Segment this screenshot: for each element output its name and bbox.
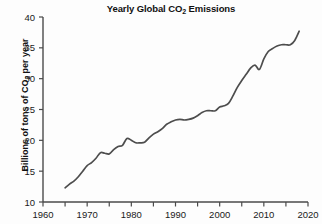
x-tick-label: 2020 xyxy=(297,209,318,220)
y-tick-label: 10 xyxy=(24,197,35,208)
y-tick-label: 15 xyxy=(24,166,35,177)
y-tick-label-group: 10152025303540 xyxy=(24,12,35,208)
data-series-line xyxy=(65,31,299,188)
y-tick-label: 25 xyxy=(24,104,35,115)
x-tick-label: 1980 xyxy=(121,209,142,220)
y-tick-label: 35 xyxy=(24,42,35,53)
y-tick-label: 20 xyxy=(24,135,35,146)
x-tick-label: 1990 xyxy=(165,209,186,220)
y-tick-label: 40 xyxy=(24,12,35,23)
x-tick-label: 2000 xyxy=(209,209,230,220)
chart-container: Yearly Global CO2 Emissions Billions of … xyxy=(0,0,322,224)
x-tick-label: 2010 xyxy=(253,209,274,220)
x-tick-label: 1970 xyxy=(77,209,98,220)
x-tick-label-group: 1960197019801990200020102020 xyxy=(32,209,318,220)
y-tick-label: 30 xyxy=(24,73,35,84)
x-tick-label: 1960 xyxy=(32,209,53,220)
plot-area: 10152025303540 1960197019801990200020102… xyxy=(0,0,322,224)
